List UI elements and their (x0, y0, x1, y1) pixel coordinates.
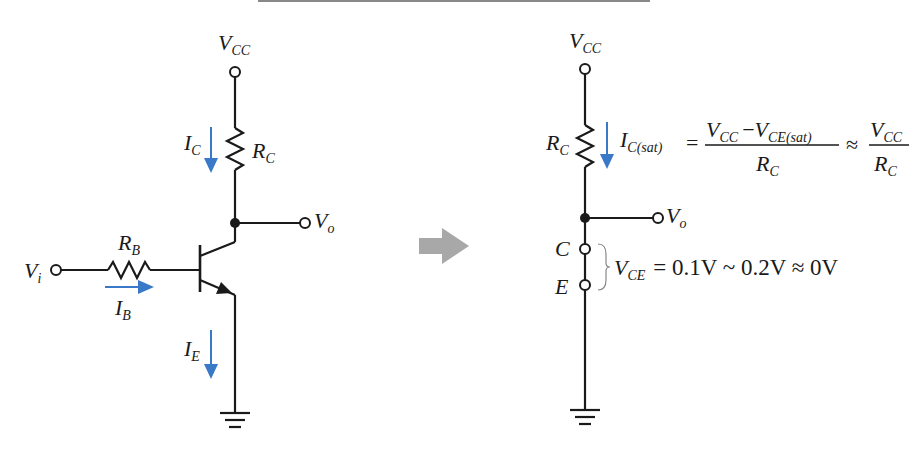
left-ib-label: IB (114, 295, 131, 323)
collector-terminal (580, 244, 590, 254)
transition-arrow-icon (419, 228, 469, 264)
svg-text:=: = (686, 130, 698, 155)
left-circuit: VCC RC IC Vo Vi RB (24, 30, 334, 427)
left-rc-label: RC (251, 138, 275, 166)
emitter-terminal (580, 280, 590, 290)
node-e-label: E (554, 274, 569, 299)
right-rc-resistor (577, 125, 593, 167)
svg-text:VCC−VCE(sat): VCC−VCE(sat) (706, 117, 812, 146)
left-rc-resistor (227, 128, 243, 170)
right-ground-icon (570, 410, 600, 424)
left-vi-label: Vi (24, 258, 41, 286)
left-rb-resistor (108, 262, 150, 278)
left-rb-label: RB (117, 230, 140, 258)
left-vo-label: Vo (314, 208, 334, 236)
brace-icon (598, 244, 610, 290)
right-rc-label: RC (545, 130, 569, 158)
vce-equation: VCE= 0.1V ~ 0.2V ≈ 0V (614, 255, 839, 283)
saturation-current-equation: = VCC−VCE(sat) RC ≈ VCC RC (686, 117, 909, 179)
diagram-canvas: VCC RC IC Vo Vi RB (0, 0, 916, 449)
right-vcc-label: VCC (569, 28, 602, 56)
svg-text:RC: RC (873, 151, 897, 179)
left-ie-label: IE (183, 336, 200, 364)
right-vcc-terminal (580, 64, 590, 74)
left-vcc-label: VCC (218, 30, 251, 58)
svg-text:≈: ≈ (846, 132, 858, 157)
node-c-label: C (555, 236, 570, 261)
svg-text:VCC: VCC (870, 117, 903, 145)
npn-transistor (200, 223, 235, 412)
left-vi-terminal (51, 265, 61, 275)
left-ic-label: IC (183, 130, 201, 158)
right-circuit: VCC RC IC(sat) = VCC−VCE(sat) RC ≈ VCC R… (545, 28, 909, 424)
right-ic-sat-label: IC(sat) (619, 127, 663, 156)
svg-text:RC: RC (755, 151, 779, 179)
left-ground-icon (220, 413, 250, 427)
right-vo-label: Vo (666, 203, 686, 231)
right-vo-terminal (653, 213, 663, 223)
left-vo-terminal (300, 218, 310, 228)
left-vcc-terminal (230, 67, 240, 77)
